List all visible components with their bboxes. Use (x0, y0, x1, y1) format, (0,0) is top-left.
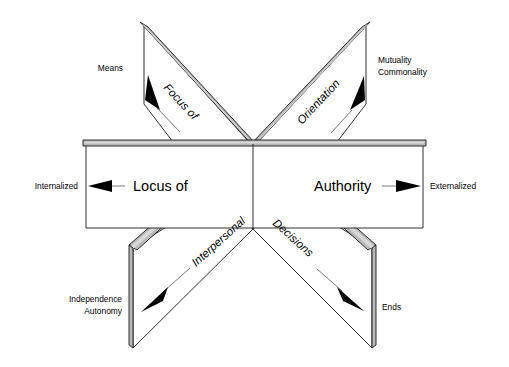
ribbon-highlight-horizontal (85, 141, 425, 143)
pole-label-independence: Independence (69, 294, 122, 304)
pole-label-commonality: Commonality (378, 67, 428, 77)
pole-label-ends: Ends (382, 302, 401, 312)
pole-label-internalized: Internalized (35, 181, 79, 191)
slab-edge-interpersonal (129, 245, 133, 348)
axis-label-locus-of: Locus of (133, 178, 189, 194)
pole-label-externalized: Externalized (430, 181, 476, 191)
panel-focus-of (140, 22, 255, 143)
panel-orientation (252, 22, 370, 143)
axis-label-authority: Authority (314, 178, 372, 194)
pole-label-autonomy: Autonomy (84, 306, 123, 316)
slab-edge-decisions (372, 245, 376, 348)
pole-label-mutuality: Mutuality (378, 55, 412, 65)
pole-label-means: Means (98, 63, 123, 73)
pinwheel-diagram: Focus of Orientation Interpersonal Decis… (0, 0, 509, 367)
diagram-canvas: Focus of Orientation Interpersonal Decis… (0, 0, 509, 367)
